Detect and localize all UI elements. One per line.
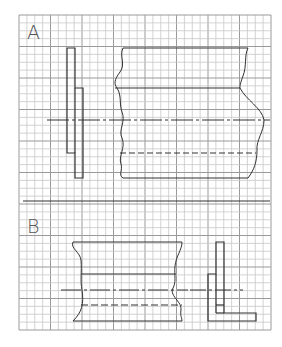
grid-paper bbox=[19, 15, 271, 330]
exercise-a: A bbox=[27, 21, 270, 178]
exercise-b-label: B bbox=[27, 215, 39, 237]
exercise-b-front-view bbox=[72, 242, 182, 321]
exercise-b: B bbox=[27, 215, 256, 321]
drawing-sheet: A B bbox=[0, 0, 282, 347]
exercise-a-label: A bbox=[27, 21, 40, 43]
